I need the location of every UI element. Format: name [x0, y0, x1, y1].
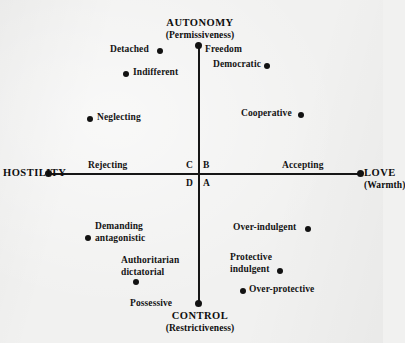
demanding-line-1: Demanding: [95, 221, 143, 231]
quadrant-label-b: B: [203, 160, 209, 170]
pole-label-hostility: HOSTILITY: [3, 167, 66, 179]
point-label-authoritarian-dictatorial: Authoritarian dictatorial: [121, 255, 179, 278]
pole-hostility-name: HOSTILITY: [3, 167, 66, 178]
point-dot-demanding-antagonistic: [85, 235, 91, 241]
pole-autonomy-name: AUTONOMY: [166, 17, 233, 28]
point-dot-detached: [157, 48, 163, 54]
axis-label-freedom: Freedom: [205, 44, 242, 55]
pole-autonomy-sub: (Permissiveness): [148, 29, 252, 41]
quadrant-label-d: D: [186, 178, 193, 188]
point-label-protective-indulgent: Protective indulgent: [230, 252, 272, 275]
protective-line-2: indulgent: [230, 264, 269, 274]
point-dot-democratic: [264, 63, 270, 69]
axis-label-possessive: Possessive: [130, 298, 172, 309]
point-label-over-protective: Over-protective: [249, 284, 314, 295]
axis-endpoint-dot-freedom: [195, 42, 202, 49]
point-dot-neglecting: [87, 116, 93, 122]
protective-line-1: Protective: [230, 252, 272, 262]
pole-love-sub: (Warmth): [364, 179, 405, 191]
axis-label-rejecting: Rejecting: [88, 160, 127, 171]
point-label-detached: Detached: [110, 44, 149, 55]
quadrant-label-c: C: [186, 160, 193, 170]
pole-control-sub: (Restrictiveness): [148, 322, 252, 334]
pole-label-love: LOVE (Warmth): [364, 167, 405, 191]
pole-label-control: CONTROL (Restrictiveness): [148, 310, 252, 334]
point-label-democratic: Democratic: [213, 59, 261, 70]
point-label-indifferent: Indifferent: [133, 67, 178, 78]
point-dot-over-indulgent: [305, 226, 311, 232]
axis-label-accepting: Accepting: [282, 160, 324, 171]
demanding-line-2: antagonistic: [95, 233, 145, 243]
point-label-neglecting: Neglecting: [97, 112, 141, 123]
point-dot-cooperative: [298, 112, 304, 118]
pole-control-name: CONTROL: [172, 310, 229, 321]
point-dot-over-protective: [240, 288, 246, 294]
authoritarian-line-1: Authoritarian: [121, 255, 179, 265]
point-label-demanding-antagonistic: Demanding antagonistic: [95, 221, 145, 244]
point-dot-authoritarian-dictatorial: [133, 279, 139, 285]
pole-label-autonomy: AUTONOMY (Permissiveness): [148, 17, 252, 41]
quadrant-label-a: A: [203, 178, 210, 188]
point-label-over-indulgent: Over-indulgent: [233, 222, 296, 233]
point-dot-protective-indulgent: [277, 268, 283, 274]
point-label-cooperative: Cooperative: [241, 108, 292, 119]
axis-endpoint-dot-love: [357, 170, 364, 177]
axis-endpoint-dot-possessive: [195, 300, 202, 307]
point-dot-indifferent: [123, 71, 129, 77]
vertical-axis: [198, 44, 200, 304]
horizontal-axis: [47, 173, 363, 175]
authoritarian-line-2: dictatorial: [121, 267, 164, 277]
pole-love-name: LOVE: [364, 167, 396, 178]
